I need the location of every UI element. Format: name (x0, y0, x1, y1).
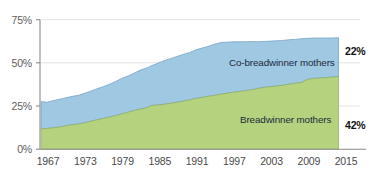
stacked-area-chart: 75% 50% 25% 0% 1967 1973 1979 1985 1991 … (0, 0, 374, 175)
end-value-breadwinner-mothers: 42% (345, 119, 365, 131)
y-axis-tick-label: 25% (0, 100, 32, 112)
series-label-co-breadwinner-mothers: Co-breadwinner mothers (229, 57, 335, 68)
y-axis-tick-label: 0% (0, 143, 32, 155)
y-axis-tick-label: 75% (0, 14, 32, 26)
y-axis-tick-label: 50% (0, 57, 32, 69)
x-axis-tick-label: 1991 (177, 155, 217, 167)
x-axis-tick-label: 2015 (326, 155, 366, 167)
x-axis-tick-label: 1967 (28, 155, 68, 167)
chart-canvas (0, 0, 374, 175)
x-axis-tick-label: 2003 (252, 155, 292, 167)
end-value-co-breadwinner-mothers: 22% (345, 45, 365, 57)
x-axis-tick-label: 2009 (289, 155, 329, 167)
x-axis-tick-label: 1979 (103, 155, 143, 167)
x-axis-tick-label: 1985 (140, 155, 180, 167)
x-axis-tick-label: 1973 (65, 155, 105, 167)
x-axis-tick-label: 1997 (214, 155, 254, 167)
area-series-group (41, 38, 338, 150)
series-label-breadwinner-mothers: Breadwinner mothers (240, 114, 331, 125)
